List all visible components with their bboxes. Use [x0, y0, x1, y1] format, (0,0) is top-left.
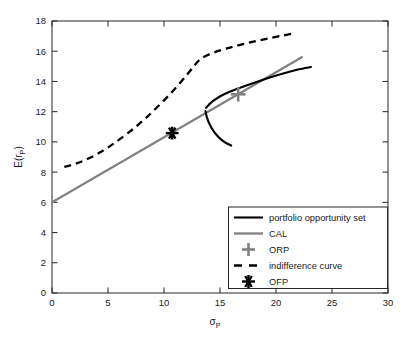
x-tick-label: 0: [49, 297, 54, 308]
y-tick-label: 14: [35, 76, 46, 87]
x-axis-title: σP: [210, 316, 221, 330]
legend-item-label: CAL: [269, 229, 287, 239]
data-layer: [52, 33, 311, 202]
y-tick-label: 8: [41, 167, 46, 178]
series-frontier-lower: [205, 111, 231, 146]
chart-figure: 0 5 10 15 20 25 30 0 2 4 6 8 10 12 14 16…: [0, 0, 414, 341]
legend-item-label: OFP: [269, 277, 288, 287]
y-tick-label: 10: [35, 136, 46, 147]
legend-item-label: indifference curve: [269, 261, 342, 271]
x-axis-title-subscript: P: [216, 321, 221, 330]
chart-legend[interactable]: portfolio opportunity set CAL ORP indiff…: [229, 207, 388, 289]
x-tick-label: 30: [383, 297, 394, 308]
x-tick-label: 5: [105, 297, 110, 308]
y-tick-label: 18: [35, 15, 46, 26]
series-frontier-upper: [206, 67, 311, 108]
y-tick-label: 16: [35, 46, 46, 57]
x-tick-label: 15: [215, 297, 226, 308]
series-indifference-curve: [64, 33, 295, 167]
y-tick-labels: 0 2 4 6 8 10 12 14 16 18: [35, 15, 46, 298]
legend-item-label: portfolio opportunity set: [269, 213, 366, 223]
y-axis-title-post: ): [13, 146, 24, 149]
svg-text:σP: σP: [210, 316, 221, 330]
svg-text:E(rP): E(rP): [13, 146, 27, 167]
y-tick-label: 2: [41, 257, 46, 268]
y-tick-label: 12: [35, 106, 46, 117]
legend-item-label: ORP: [269, 245, 289, 255]
y-axis-title: E(rP): [13, 146, 27, 167]
y-axis-title-pre: E(r: [13, 154, 24, 168]
y-tick-label: 6: [41, 197, 46, 208]
y-tick-label: 0: [41, 287, 46, 298]
x-tick-label: 20: [271, 297, 282, 308]
portfolio-chart-svg: 0 5 10 15 20 25 30 0 2 4 6 8 10 12 14 16…: [0, 0, 414, 341]
x-tick-labels: 0 5 10 15 20 25 30: [49, 297, 393, 308]
x-tick-label: 10: [159, 297, 170, 308]
x-tick-label: 25: [327, 297, 338, 308]
y-tick-label: 4: [41, 227, 46, 238]
